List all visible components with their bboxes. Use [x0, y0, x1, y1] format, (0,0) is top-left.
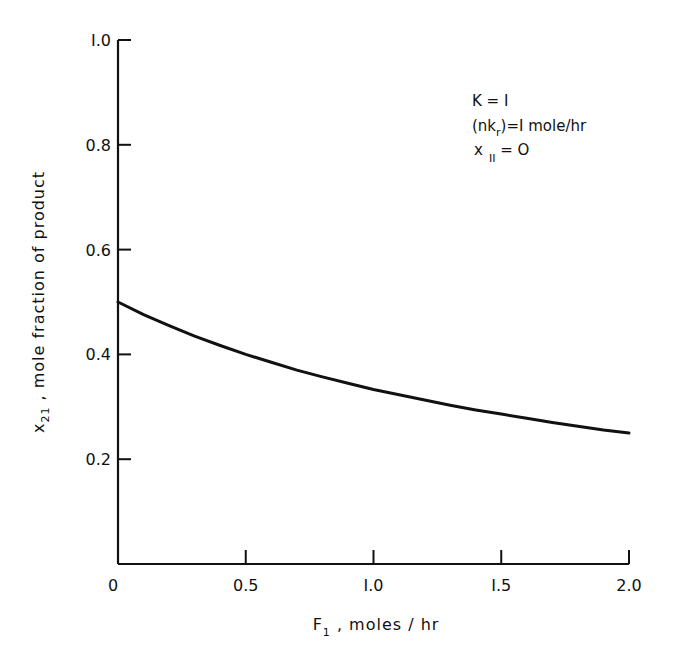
y-axis-label: x21 , mole fraction of product: [29, 171, 52, 433]
x-tick-label: 0: [108, 576, 118, 595]
y-tick-label: I.0: [91, 31, 111, 50]
data-series-x21: [118, 302, 629, 433]
y-ticks: 0.20.40.60.8I.0: [86, 31, 131, 469]
x-tick-label: 0.5: [233, 576, 258, 595]
y-tick-label: 0.8: [86, 136, 111, 155]
y-tick-label: 0.2: [86, 450, 111, 469]
y-tick-label: 0.6: [86, 241, 111, 260]
parameter-annotations: K = I (nkr)=I mole/hr xII = O: [472, 92, 587, 165]
y-tick-label: 0.4: [86, 345, 111, 364]
x-tick-label: 2.0: [616, 576, 641, 595]
annotation-nkr: (nkr)=I mole/hr: [472, 117, 587, 139]
chart-canvas: 0.20.40.60.8I.0 00.5I.0I.52.0 x21 , mole…: [0, 0, 675, 670]
annotation-x11: xII = O: [474, 141, 529, 165]
annotation-k: K = I: [472, 92, 508, 110]
x-ticks: 00.5I.0I.52.0: [108, 550, 642, 595]
x-tick-label: I.5: [491, 576, 511, 595]
x-tick-label: I.0: [364, 576, 384, 595]
x-axis-label: F1 , moles / hr: [313, 615, 440, 639]
